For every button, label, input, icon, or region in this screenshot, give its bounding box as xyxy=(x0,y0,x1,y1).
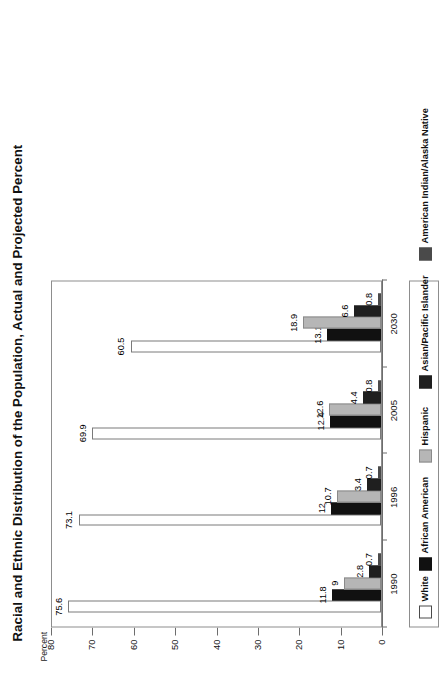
bar[interactable]: 73.1 xyxy=(79,514,381,526)
bar[interactable]: 6.6 xyxy=(354,305,381,317)
bar[interactable]: 69.9 xyxy=(92,427,381,439)
bar-group: 73.11210.73.40.7 xyxy=(52,466,381,525)
bar-group: 60.513.118.96.60.8 xyxy=(52,293,381,352)
bar[interactable]: 0.7 xyxy=(378,553,381,565)
rotated-figure: Racial and Ethnic Distribution of the Po… xyxy=(0,0,448,675)
category-label-2005: 2005 xyxy=(388,386,399,434)
bar-value-label: 60.5 xyxy=(117,337,126,355)
bar[interactable]: 0.8 xyxy=(378,380,381,392)
bar[interactable]: 10.7 xyxy=(337,490,381,502)
bar-value-label: 12.6 xyxy=(316,400,325,418)
legend-swatch-icon xyxy=(419,557,432,570)
bar-group: 69.912.412.64.40.8 xyxy=(52,380,381,439)
bar[interactable]: 75.6 xyxy=(68,600,381,612)
chart-legend: WhiteAfrican AmericanHispanicAsian/Pacif… xyxy=(409,280,439,627)
legend-item-hispanic[interactable]: Hispanic xyxy=(416,406,434,462)
legend-label: Asian/Pacific Islander xyxy=(420,275,430,371)
value-axis-tick-label: 10 xyxy=(335,639,346,663)
category-axis-tick xyxy=(382,453,387,454)
chart-page: Racial and Ethnic Distribution of the Po… xyxy=(0,0,448,675)
value-axis-tick-label: 0 xyxy=(376,639,387,663)
legend-item-african-american[interactable]: African American xyxy=(416,476,434,570)
bar[interactable]: 4.4 xyxy=(363,391,381,403)
bar-value-label: 9 xyxy=(331,580,340,585)
bar-value-label: 11.8 xyxy=(319,586,328,603)
bar-value-label: 0.7 xyxy=(365,466,374,479)
bar[interactable]: 0.8 xyxy=(378,293,381,305)
plot-area: 75.611.892.80.773.11210.73.40.769.912.41… xyxy=(51,280,382,627)
value-axis-tick-label: 70 xyxy=(86,639,97,663)
value-axis-tick xyxy=(51,627,52,635)
value-axis-tick xyxy=(258,627,259,635)
value-axis-tick-label: 60 xyxy=(128,639,139,663)
value-axis-tick xyxy=(134,627,135,635)
value-axis-tick xyxy=(217,627,218,635)
value-axis-tick xyxy=(175,627,176,635)
category-label-1990: 1990 xyxy=(388,560,399,608)
bar[interactable]: 60.5 xyxy=(131,340,381,352)
bar-value-label: 18.9 xyxy=(290,313,299,331)
value-axis-tick xyxy=(299,627,300,635)
legend-item-white[interactable]: White xyxy=(416,576,434,618)
category-label-2030: 2030 xyxy=(388,299,399,347)
category-axis-tick xyxy=(382,279,387,280)
legend-item-american-indian-alaska-native[interactable]: American Indian/Alaska Native xyxy=(416,108,434,260)
bar-group: 75.611.892.80.7 xyxy=(52,553,381,612)
bar[interactable]: 12.4 xyxy=(330,415,381,427)
value-axis-tick-label: 80 xyxy=(45,639,56,663)
bar[interactable]: 18.9 xyxy=(303,316,381,328)
bar-value-label: 6.6 xyxy=(341,304,350,317)
chart-title: Racial and Ethnic Distribution of the Po… xyxy=(10,144,25,641)
legend-swatch-icon xyxy=(419,247,432,260)
bar-value-label: 2.8 xyxy=(356,564,365,577)
category-axis-tick xyxy=(382,366,387,367)
category-axis-tick xyxy=(382,626,387,627)
legend-label: African American xyxy=(420,476,430,553)
bar-value-label: 4.4 xyxy=(350,391,359,404)
bar[interactable]: 2.8 xyxy=(369,565,381,577)
value-axis-tick-label: 20 xyxy=(293,639,304,663)
bar-value-label: 69.9 xyxy=(79,424,88,442)
bar[interactable]: 12 xyxy=(331,502,381,514)
legend-label: White xyxy=(420,576,430,601)
bar-value-label: 3.4 xyxy=(354,478,363,491)
category-axis-tick xyxy=(382,539,387,540)
legend-swatch-icon xyxy=(419,449,432,462)
category-label-1996: 1996 xyxy=(388,473,399,521)
bar[interactable]: 3.4 xyxy=(367,478,381,490)
value-axis-tick xyxy=(92,627,93,635)
legend-label: Hispanic xyxy=(420,406,430,445)
bar[interactable]: 11.8 xyxy=(332,589,381,601)
bar[interactable]: 9 xyxy=(344,577,381,589)
bar-value-label: 0.8 xyxy=(365,379,374,392)
value-axis-tick xyxy=(382,627,383,635)
bar-value-label: 0.8 xyxy=(365,292,374,305)
bar-value-label: 10.7 xyxy=(324,487,333,505)
bar[interactable]: 12.6 xyxy=(329,403,381,415)
bar-value-label: 0.7 xyxy=(365,553,374,566)
bar-value-label: 75.6 xyxy=(55,597,64,615)
value-axis-tick-label: 50 xyxy=(169,639,180,663)
legend-label: American Indian/Alaska Native xyxy=(420,108,430,243)
legend-swatch-icon xyxy=(419,605,432,618)
value-axis-tick-label: 30 xyxy=(252,639,263,663)
bar-value-label: 73.1 xyxy=(65,511,74,529)
legend-swatch-icon xyxy=(419,375,432,388)
bar[interactable]: 0.7 xyxy=(378,466,381,478)
value-axis-tick-label: 40 xyxy=(211,639,222,663)
value-axis-tick xyxy=(341,627,342,635)
legend-item-asian-pacific-islander[interactable]: Asian/Pacific Islander xyxy=(416,275,434,388)
bar[interactable]: 13.1 xyxy=(327,328,381,340)
